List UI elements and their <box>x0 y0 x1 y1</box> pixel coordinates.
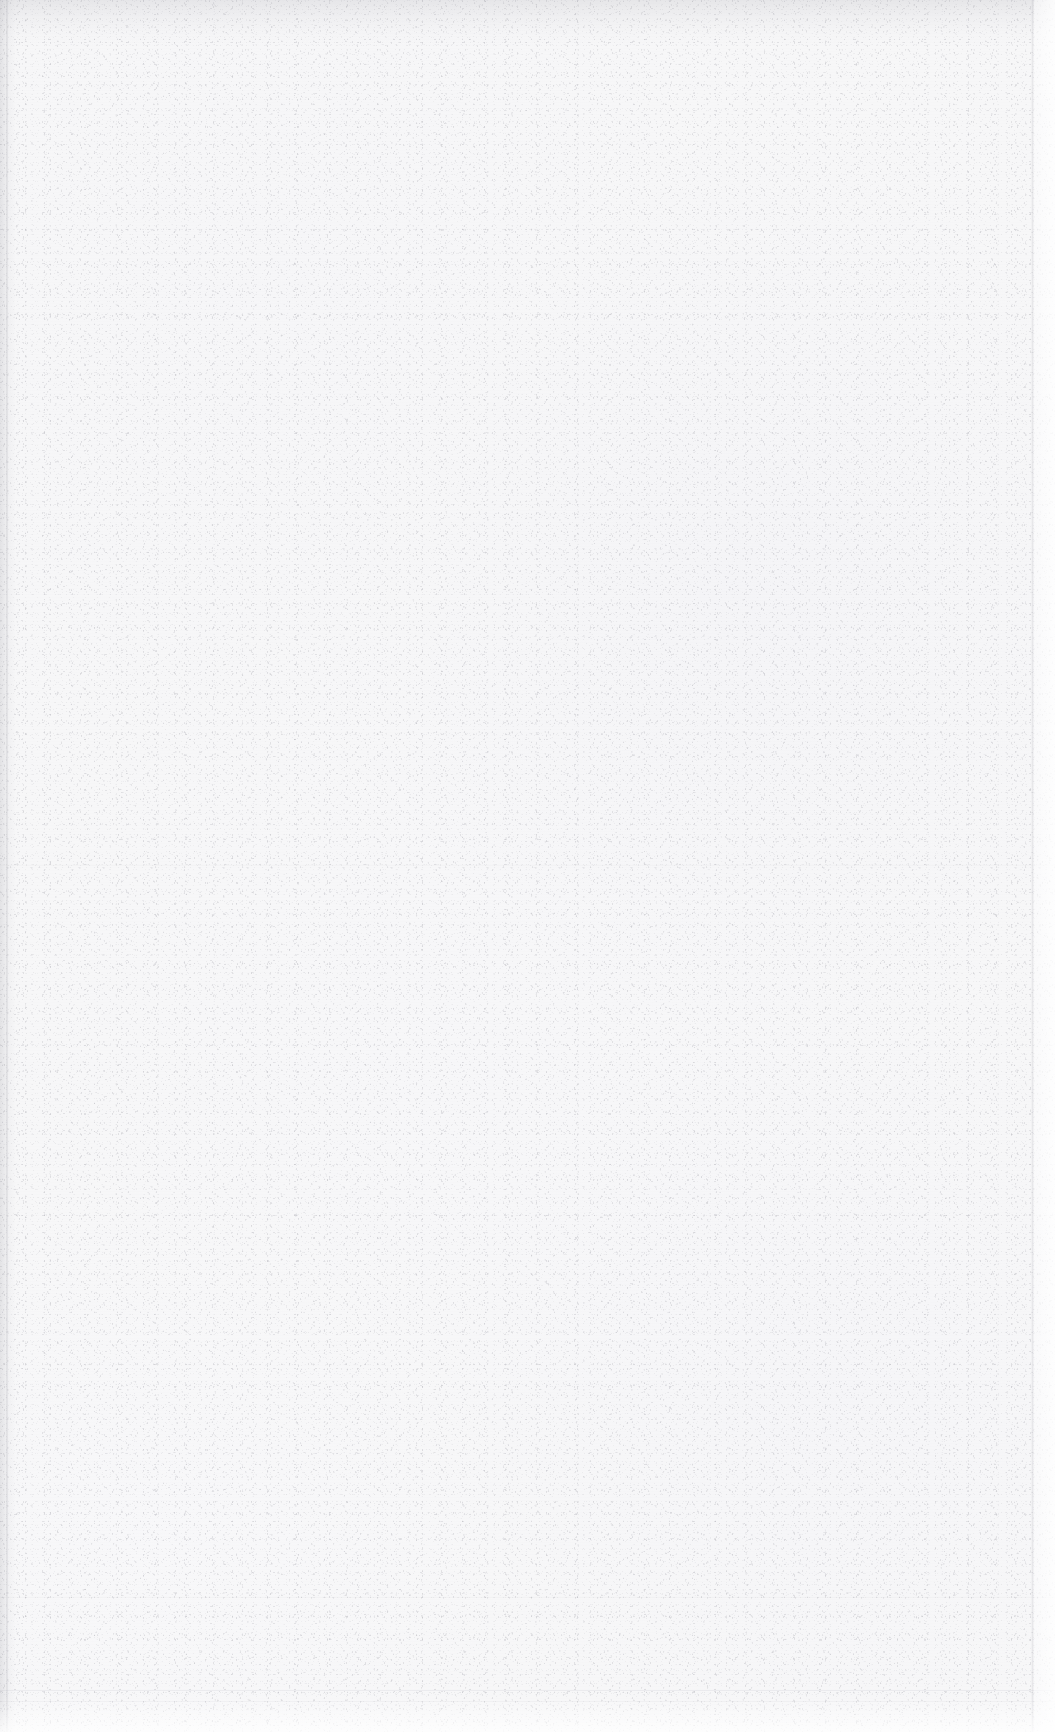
left-edge-shadow <box>0 0 16 1732</box>
right-outside-page-strip <box>1034 0 1055 1732</box>
top-edge-shadow <box>0 0 1055 46</box>
scanned-page-canvas <box>0 0 1055 1732</box>
left-page-edge-line <box>6 0 8 1732</box>
bottom-edge-highlight <box>0 1698 1055 1732</box>
page-content-area <box>0 0 1055 1732</box>
